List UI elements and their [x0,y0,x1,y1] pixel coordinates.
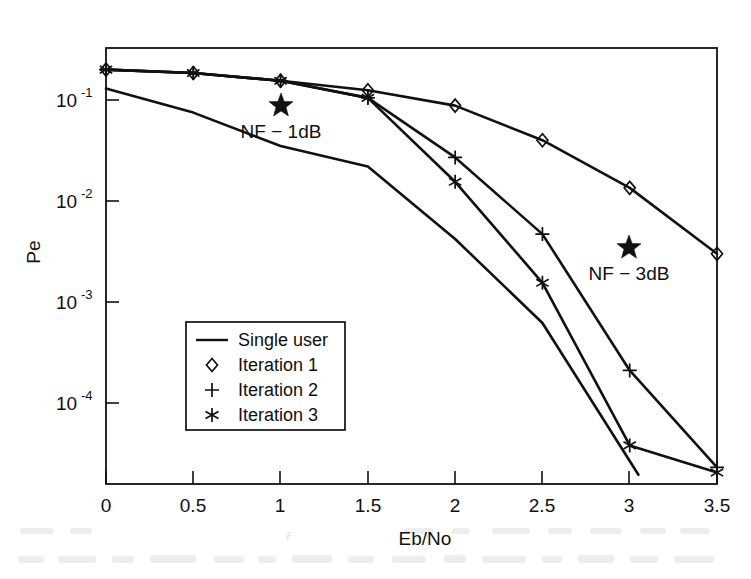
legend-label-iteration-2: Iteration 2 [238,380,318,400]
pe-vs-ebno-chart: F 10 -1 10 -2 10 -3 [0,0,751,579]
legend-label-single-user: Single user [238,330,328,350]
y-axis-title: Pe [23,240,44,263]
x-tick-label-3p5: 3.5 [704,495,730,516]
y-tick-label-1e-3-exponent: -3 [81,287,93,302]
y-tick-label-1e-1-exponent: -1 [81,85,93,100]
x-tick-label-0: 0 [101,495,112,516]
legend[interactable]: Single user Iteration 1 Iteration 2 Iter… [186,322,345,430]
y-tick-label-1e-2-mantissa: 10 [56,191,77,212]
x-tick-label-2: 2 [450,495,461,516]
x-tick-label-1p5: 1.5 [355,495,381,516]
figure-container: F 10 -1 10 -2 10 -3 [0,0,751,579]
legend-label-iteration-1: Iteration 1 [238,355,318,375]
y-tick-label-1e-2-exponent: -2 [81,186,93,201]
y-tick-label-1e-4-mantissa: 10 [56,393,77,414]
x-tick-label-2p5: 2.5 [529,495,555,516]
legend-label-iteration-3: Iteration 3 [238,405,318,425]
chart-background [0,0,751,579]
y-tick-label-1e-1-mantissa: 10 [56,90,77,111]
x-tick-label-3: 3 [624,495,635,516]
x-tick-label-0p5: 0.5 [180,495,206,516]
y-tick-label-1e-3-mantissa: 10 [56,292,77,313]
x-tick-label-1: 1 [275,495,286,516]
annotation-nf-3db-label: NF − 3dB [589,263,670,284]
x-axis-title: Eb/No [399,528,452,549]
annotation-nf-1db-label: NF − 1dB [241,121,322,142]
y-tick-label-1e-4-exponent: -4 [81,388,93,403]
svg-text:F: F [285,529,293,541]
